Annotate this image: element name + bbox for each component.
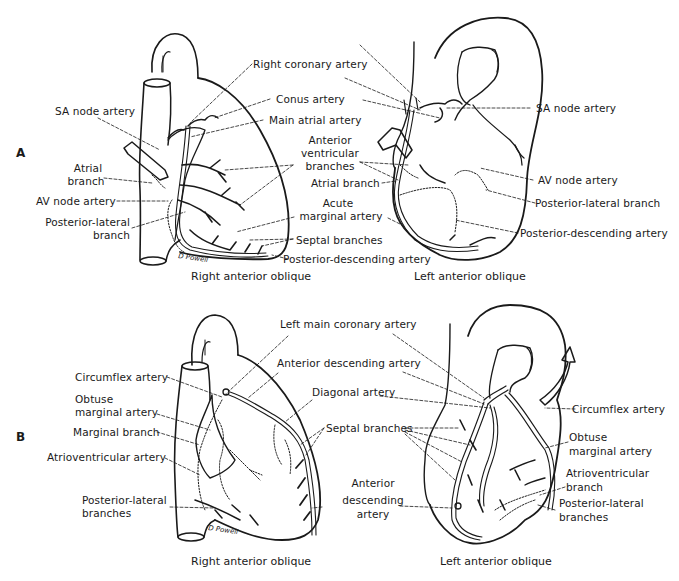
label-anterior: Anterior bbox=[295, 134, 365, 146]
label-lao-marginal-artery: marginal artery bbox=[569, 445, 652, 457]
label-marginal-artery: marginal artery bbox=[296, 210, 386, 222]
label-branches: branches bbox=[295, 160, 365, 172]
label-posterior-descending-artery: Posterior-descending artery bbox=[283, 253, 431, 265]
label-ventricular: ventricular bbox=[295, 147, 365, 159]
label-lao-branch: branch bbox=[566, 481, 603, 493]
label-artery: artery bbox=[338, 508, 408, 520]
label-sa-node-artery: SA node artery bbox=[55, 105, 135, 117]
label-diagonal-artery: Diagonal artery bbox=[312, 386, 395, 398]
label-lao-av-node-artery: AV node artery bbox=[538, 174, 618, 186]
label-descending: descending bbox=[334, 494, 412, 506]
artist-signature: D Powell bbox=[178, 252, 209, 264]
label-main-atrial-artery: Main atrial artery bbox=[269, 114, 362, 126]
label-av-node-artery: AV node artery bbox=[36, 195, 116, 207]
label-anterior: Anterior bbox=[338, 477, 408, 489]
caption-a-rao: Right anterior oblique bbox=[191, 270, 311, 283]
label-lao-circumflex-artery: Circumflex artery bbox=[572, 403, 665, 415]
label-atrial-branch: Atrial branch bbox=[311, 177, 380, 189]
artist-signature: D Powell bbox=[208, 524, 239, 536]
label-septal-branches: Septal branches bbox=[326, 422, 413, 434]
label-septal-branches: Septal branches bbox=[296, 234, 383, 246]
label-branch: branch bbox=[66, 175, 106, 187]
caption-b-lao: Left anterior oblique bbox=[440, 555, 552, 568]
label-lao-sa-node-artery: SA node artery bbox=[536, 102, 616, 114]
label-right-coronary-artery: Right coronary artery bbox=[253, 58, 368, 70]
label-obtuse: Obtuse bbox=[75, 393, 113, 405]
heart-b-rao-drawing bbox=[175, 315, 321, 541]
label-posterior-lateral: Posterior-lateral bbox=[82, 494, 167, 506]
label-anterior-descending-artery: Anterior descending artery bbox=[277, 357, 421, 369]
caption-a-lao: Left anterior oblique bbox=[414, 270, 526, 283]
label-lao-posterior-descending-artery: Posterior-descending artery bbox=[520, 227, 668, 239]
label-lao-obtuse: Obtuse bbox=[569, 431, 607, 443]
label-atrioventricular-artery: Atrioventricular artery bbox=[47, 451, 166, 463]
label-posterior-lateral-branches: branches bbox=[82, 507, 131, 519]
label-acute: Acute bbox=[298, 197, 378, 209]
label-lao-posterior-lateral-branches: branches bbox=[559, 511, 608, 523]
label-marginal-artery: marginal artery bbox=[75, 406, 158, 418]
label-atrial: Atrial bbox=[70, 162, 106, 174]
caption-b-rao: Right anterior oblique bbox=[191, 555, 311, 568]
heart-a-lao-drawing bbox=[378, 18, 542, 260]
label-left-main-coronary-artery: Left main coronary artery bbox=[280, 318, 417, 330]
label-marginal-branch: Marginal branch bbox=[73, 426, 160, 438]
panel-letter-a: A bbox=[16, 146, 25, 160]
coronary-artery-figure: D Powell D Powell A B SA node artery Atr… bbox=[0, 0, 679, 581]
label-posterior-lateral-branch: branch bbox=[30, 229, 130, 241]
label-lao-atrioventricular: Atrioventricular bbox=[566, 467, 649, 479]
label-circumflex-artery: Circumflex artery bbox=[75, 371, 168, 383]
panel-letter-b: B bbox=[16, 430, 25, 444]
label-posterior-lateral: Posterior-lateral bbox=[30, 216, 130, 228]
label-conus-artery: Conus artery bbox=[276, 93, 345, 105]
label-lao-posterior-lateral: Posterior-lateral bbox=[559, 497, 644, 509]
label-lao-posterior-lateral-branch: Posterior-lateral branch bbox=[535, 197, 660, 209]
